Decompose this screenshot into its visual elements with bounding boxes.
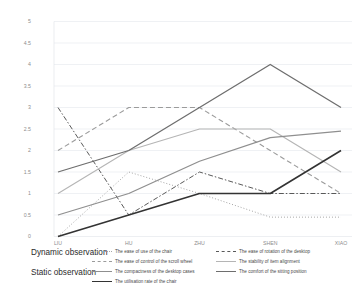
series-line [58, 65, 341, 173]
line-chart-plot: 00.511.522.533.544.55 LIUHUZHUSHENXIAO [0, 0, 363, 246]
legend-swatch-solid [92, 281, 112, 282]
y-axis-tick-label: 0 [11, 233, 31, 239]
legend-group-static-label: Static observation [31, 268, 96, 278]
legend-swatch-dashed [92, 261, 112, 262]
legend-swatch-solid [216, 261, 236, 262]
y-axis-tick-label: 2 [11, 147, 31, 153]
y-axis-tick-label: 1 [11, 190, 31, 196]
legend-swatch-solid [92, 271, 112, 272]
y-axis-tick-label: 3.5 [11, 83, 31, 89]
y-axis-tick-label: 4.5 [11, 40, 31, 46]
legend-swatch-solid [216, 271, 236, 272]
legend-label: The ease of use of the chair [115, 247, 172, 256]
legend-label: The compactness of the desktop cases [115, 267, 195, 276]
y-axis-tick-label: 2.5 [11, 126, 31, 132]
legend-label: The ease of control of the scroll wheel [115, 257, 192, 266]
legend-label: The stability of item alignment [239, 257, 300, 266]
chart-screenshot: 00.511.522.533.544.55 LIUHUZHUSHENXIAO D… [0, 0, 363, 299]
legend-swatch-dotted [92, 251, 112, 252]
legend-group-dynamic-label: Dynamic observation [31, 248, 107, 258]
legend-label: The utilisation rate of the chair [115, 277, 177, 286]
legend-label: The comfort of the sitting position [239, 267, 307, 276]
y-axis-tick-label: 0.5 [11, 212, 31, 218]
y-axis-tick-label: 4 [11, 61, 31, 67]
y-axis-tick-label: 1.5 [11, 169, 31, 175]
chart-canvas [0, 0, 363, 246]
legend-swatch-dash-dot [216, 251, 236, 252]
y-axis-tick-label: 5 [11, 18, 31, 24]
chart-legend: Dynamic observation Static observation T… [0, 244, 363, 299]
series-line [58, 172, 341, 237]
series-line [58, 131, 341, 215]
legend-label: The ease of rotation of the desktop [239, 247, 310, 256]
y-axis-tick-label: 3 [11, 104, 31, 110]
